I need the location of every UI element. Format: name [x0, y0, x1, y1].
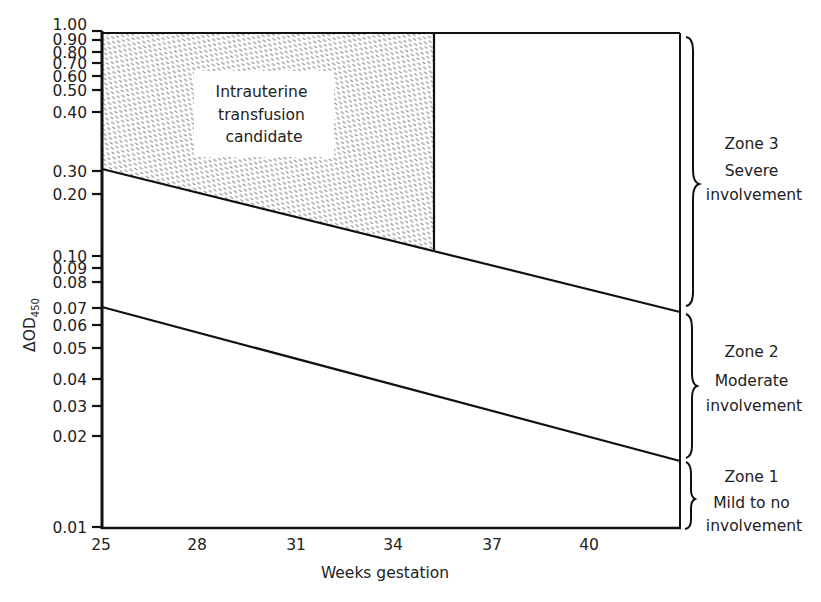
y-tick-label: 0.04 — [52, 371, 87, 389]
y-tick-label: 0.02 — [52, 428, 87, 446]
x-tick-label: 34 — [383, 536, 403, 554]
zone2-brace-icon — [686, 314, 697, 458]
x-tick-label: 28 — [187, 536, 207, 554]
chart: Intrauterine transfusion candidate — [0, 0, 821, 602]
x-tick-label: 37 — [482, 536, 502, 554]
y-tick-label: 0.03 — [52, 398, 87, 416]
x-axis-tick-labels: 25 28 31 34 37 40 — [91, 536, 599, 554]
y-tick-label: 0.40 — [52, 104, 87, 122]
zone3-brace-icon — [686, 37, 699, 306]
x-tick-label: 25 — [91, 536, 111, 554]
zone1-brace-icon — [685, 462, 695, 529]
y-tick-label: 0.50 — [52, 82, 87, 100]
zone2-label: Zone 2 Moderate involvement — [706, 343, 802, 415]
y-axis-title: ΔOD450 — [21, 298, 41, 352]
y-tick-label: 0.30 — [52, 163, 87, 181]
y-tick-label: 0.20 — [52, 186, 87, 204]
x-axis-title: Weeks gestation — [321, 564, 449, 582]
y-tick-label: 0.08 — [52, 274, 87, 292]
region-label: Intrauterine transfusion candidate — [216, 83, 313, 146]
y-axis-tick-labels: 1.00 0.90 0.80 0.70 0.60 0.50 0.40 0.30 … — [52, 16, 87, 537]
y-tick-label: 0.05 — [52, 340, 87, 358]
zone3-label: Zone 3 Severe involvement — [706, 135, 802, 204]
zone1-label: Zone 1 Mild to no involvement — [706, 468, 802, 535]
y-tick-label: 0.01 — [52, 519, 87, 537]
zone2-zone1-boundary-line — [102, 307, 680, 461]
y-tick-label: 0.06 — [52, 317, 87, 335]
zone-braces — [685, 37, 699, 529]
x-tick-label: 31 — [286, 536, 306, 554]
svg-text:ΔOD450: ΔOD450 — [21, 298, 41, 352]
x-tick-label: 40 — [579, 536, 599, 554]
y-tick-label: 0.07 — [52, 300, 87, 318]
